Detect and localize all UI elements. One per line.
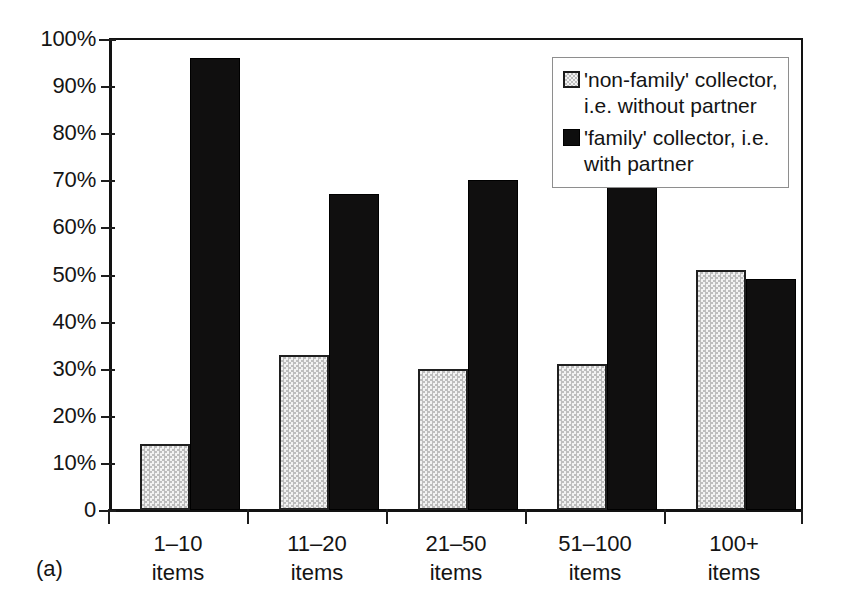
x-category-unit-1: items xyxy=(113,558,243,587)
y-tick-20 xyxy=(101,416,115,418)
panel-tag: (a) xyxy=(36,556,63,582)
y-tick-70 xyxy=(101,180,115,182)
legend-label-nonfamily-line2: i.e. without partner xyxy=(584,94,757,117)
y-tick-30 xyxy=(101,369,115,371)
figure-panel-a: 100% 90% 80% 70% 60% 50% 40% 30% 20% 10%… xyxy=(0,0,842,613)
y-axis-label-80: 80% xyxy=(0,122,96,144)
x-tick-5 xyxy=(801,509,803,524)
bar-family-1-10 xyxy=(190,58,240,510)
chart-legend: 'non-family' collector, i.e. without par… xyxy=(552,57,789,188)
legend-label-family-line1: 'family' collector, i.e. xyxy=(584,126,769,149)
y-axis-label-50: 50% xyxy=(0,264,96,286)
x-tick-4 xyxy=(664,509,666,524)
x-category-range-4: 51–100 xyxy=(530,529,660,558)
x-category-label-3: 21–50 items xyxy=(391,529,521,587)
x-category-label-5: 100+ items xyxy=(669,529,799,587)
legend-item-family: 'family' collector, i.e. with partner xyxy=(563,125,780,177)
bar-family-100plus xyxy=(746,279,796,510)
x-category-label-4: 51–100 items xyxy=(530,529,660,587)
legend-label-family: 'family' collector, i.e. with partner xyxy=(584,125,769,177)
x-category-range-2: 11–20 xyxy=(252,529,382,558)
y-axis-label-30: 30% xyxy=(0,358,96,380)
y-tick-50 xyxy=(101,275,115,277)
bar-nonfamily-100plus xyxy=(696,270,746,510)
bar-nonfamily-1-10 xyxy=(140,444,190,510)
y-tick-90 xyxy=(101,86,115,88)
bar-family-51-100 xyxy=(607,185,657,510)
bar-nonfamily-51-100 xyxy=(557,364,607,510)
x-category-unit-2: items xyxy=(252,558,382,587)
x-category-unit-5: items xyxy=(669,558,799,587)
legend-label-nonfamily-line1: 'non-family' collector, xyxy=(584,68,778,91)
bar-nonfamily-21-50 xyxy=(418,369,468,510)
legend-label-family-line2: with partner xyxy=(584,152,694,175)
y-axis-label-10: 10% xyxy=(0,452,96,474)
x-tick-2 xyxy=(386,509,388,524)
y-axis-label-70: 70% xyxy=(0,169,96,191)
y-axis-label-40: 40% xyxy=(0,311,96,333)
x-category-unit-3: items xyxy=(391,558,521,587)
bar-nonfamily-11-20 xyxy=(279,355,329,510)
bar-family-21-50 xyxy=(468,180,518,510)
legend-label-nonfamily: 'non-family' collector, i.e. without par… xyxy=(584,67,778,119)
y-axis-label-60: 60% xyxy=(0,216,96,238)
y-axis-label-0: 0 xyxy=(0,499,96,521)
x-category-range-5: 100+ xyxy=(669,529,799,558)
y-tick-100 xyxy=(99,39,116,41)
y-tick-10 xyxy=(101,463,115,465)
y-axis-label-20: 20% xyxy=(0,405,96,427)
x-tick-1 xyxy=(247,509,249,524)
x-category-range-1: 1–10 xyxy=(113,529,243,558)
y-tick-40 xyxy=(101,322,115,324)
y-tick-60 xyxy=(101,227,115,229)
x-category-label-2: 11–20 items xyxy=(252,529,382,587)
x-tick-3 xyxy=(525,509,527,524)
x-category-label-1: 1–10 items xyxy=(113,529,243,587)
legend-swatch-solid-black-icon xyxy=(563,129,580,146)
x-tick-0 xyxy=(108,509,110,524)
legend-swatch-light-checker-icon xyxy=(563,71,580,88)
x-category-unit-4: items xyxy=(530,558,660,587)
bar-family-11-20 xyxy=(329,194,379,510)
y-axis-label-90: 90% xyxy=(0,75,96,97)
y-axis-label-100: 100% xyxy=(0,28,96,50)
y-tick-80 xyxy=(101,133,115,135)
legend-item-nonfamily: 'non-family' collector, i.e. without par… xyxy=(563,67,780,119)
x-category-range-3: 21–50 xyxy=(391,529,521,558)
